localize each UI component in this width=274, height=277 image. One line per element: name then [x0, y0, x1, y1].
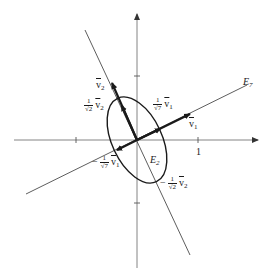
label-v2: v2	[96, 80, 105, 92]
fraction: 1√7	[153, 97, 162, 112]
vector-neg-scaled-v1	[117, 140, 137, 150]
e2-sub: 2	[156, 159, 160, 167]
minus-sign: −	[92, 156, 98, 167]
vec-sub: 2	[184, 182, 188, 190]
label-v1: v1	[189, 119, 198, 131]
fraction: 1√2	[84, 98, 93, 113]
vec-sub: 2	[100, 104, 104, 112]
eigenspace-e2-line	[85, 30, 190, 255]
diagram-canvas	[0, 0, 274, 277]
fraction-denominator: √2	[84, 106, 93, 113]
fraction: 1√7	[100, 155, 109, 170]
label-neg-scaled-v2: −1√2v2	[160, 176, 187, 191]
x-tick-label-text: 1	[196, 146, 201, 157]
vec-sub: 1	[169, 103, 173, 111]
v2-sub: 2	[101, 84, 105, 92]
label-scaled-v1: 1√7v1	[153, 97, 173, 112]
v1-sub: 1	[194, 123, 198, 131]
fraction-denominator: √7	[100, 163, 109, 170]
minus-sign: −	[160, 177, 166, 188]
fraction-denominator: √2	[168, 184, 177, 191]
label-e7: E7	[243, 77, 253, 89]
e7-sub: 7	[249, 81, 253, 89]
label-e2: E2	[150, 155, 160, 167]
vector-scaled-v2	[122, 106, 137, 140]
label-neg-scaled-v1: −1√7v1	[92, 155, 119, 170]
fraction-denominator: √7	[153, 105, 162, 112]
label-scaled-v2: 1√2v2	[84, 98, 104, 113]
fraction: 1√2	[168, 176, 177, 191]
vec-sub: 1	[116, 161, 120, 169]
x-tick-label-1: 1	[196, 147, 201, 157]
vector-scaled-v1	[137, 129, 160, 140]
